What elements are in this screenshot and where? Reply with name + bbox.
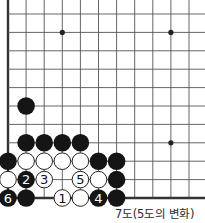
white-stone (18, 153, 35, 170)
black-stone-icon (17, 97, 35, 115)
black-stone (35, 134, 53, 152)
black-stone (90, 152, 108, 170)
black-stone-icon (72, 134, 90, 152)
star-point (168, 30, 173, 35)
white-stone (72, 153, 89, 170)
go-board: 235614 (0, 0, 205, 223)
black-stone-icon (0, 152, 17, 170)
star-point (168, 140, 173, 145)
black-stone-icon (17, 134, 35, 152)
black-stone (54, 134, 72, 152)
move-number: 5 (76, 172, 84, 187)
white-stone-move-5: 5 (72, 171, 89, 188)
black-stone-icon (108, 171, 126, 189)
move-number: 6 (4, 191, 12, 206)
black-stone (72, 134, 90, 152)
black-stone-move-4: 4 (90, 189, 108, 207)
move-number: 2 (22, 172, 30, 187)
black-stone (108, 152, 126, 170)
move-number: 4 (94, 191, 102, 206)
move-number: 1 (58, 191, 66, 206)
white-stone-icon (0, 171, 16, 188)
white-stone (36, 153, 53, 170)
black-stone-icon (35, 134, 53, 152)
white-stone-move-1: 1 (54, 190, 71, 207)
black-stone-icon (90, 152, 108, 170)
star-point (60, 30, 65, 35)
black-stone-icon (108, 152, 126, 170)
white-stone-icon (54, 153, 71, 170)
black-stone (17, 134, 35, 152)
diagram-caption: 7도(5도의 변화) (115, 205, 194, 221)
move-number: 3 (40, 172, 48, 187)
black-stone (17, 189, 35, 207)
board-grid (8, 0, 205, 198)
white-stone (90, 171, 107, 188)
white-stone (54, 153, 71, 170)
white-stone-icon (72, 190, 89, 207)
white-stone-icon (72, 153, 89, 170)
white-stone-icon (36, 153, 53, 170)
white-stone (72, 190, 89, 207)
black-stone-icon (54, 134, 72, 152)
black-stone-icon (17, 189, 35, 207)
black-stone-move-6: 6 (0, 189, 17, 207)
white-stone-icon (90, 171, 107, 188)
black-stone (108, 171, 126, 189)
black-stone-move-2: 2 (17, 171, 35, 189)
white-stone (0, 171, 16, 188)
white-stone-move-3: 3 (36, 171, 53, 188)
black-stone (17, 97, 35, 115)
black-stone (0, 152, 17, 170)
white-stone-icon (18, 153, 35, 170)
